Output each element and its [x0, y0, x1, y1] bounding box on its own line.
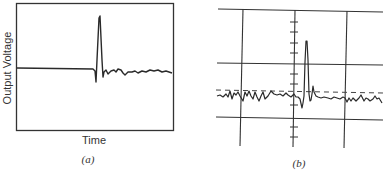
- panel-b: (b): [216, 9, 383, 170]
- panel-a-voltage-trace: [17, 16, 172, 82]
- figure-canvas: Time Output Voltage (a) (b): [0, 0, 383, 172]
- panel-a-frame: [17, 4, 174, 131]
- panel-a-caption: (a): [82, 153, 95, 166]
- panel-a-y-axis-label: Output Voltage: [1, 32, 13, 105]
- panel-a-x-axis-label: Time: [82, 134, 106, 146]
- panel-a: Time Output Voltage (a): [1, 4, 174, 167]
- panel-b-caption: (b): [293, 157, 306, 170]
- panel-b-grid: [216, 9, 383, 148]
